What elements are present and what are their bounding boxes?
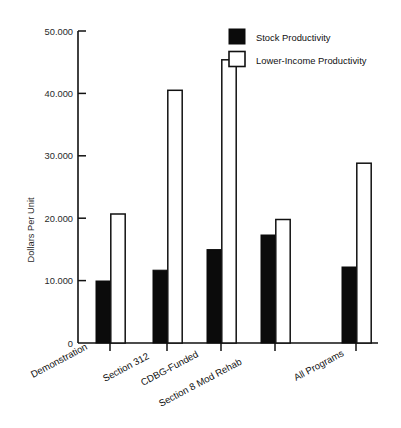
x-axis-category-labels: Demonstration Section 312 CDBG-Funded Se… [29,341,346,409]
y-axis-title: Dollars Per Unit [26,197,36,263]
bar-lower-cdbg-funded [222,60,236,343]
bar-chart: 50.000 40.000 30.000 20.000 10.000 0 Dol… [0,0,401,428]
y-tick-label-40000: 40.000 [45,89,73,99]
bar-group-section-8-mod-rehab [261,220,290,352]
bar-group-cdbg-funded [207,60,236,351]
bar-lower-section-312 [168,90,182,343]
cat-label-demonstration: Demonstration [29,341,89,380]
y-axis-tick-labels: 50.000 40.000 30.000 20.000 10.000 0 [45,27,73,349]
bar-stock-section-8-mod-rehab [261,235,275,343]
y-axis-ticks [78,31,86,281]
bar-stock-all-programs [342,267,356,343]
bar-lower-demonstration [111,214,125,343]
bar-group-demonstration [96,214,125,351]
cat-label-all-programs: All Programs [292,347,346,383]
y-tick-label-50000: 50.000 [45,27,73,37]
bar-lower-all-programs [357,163,371,343]
bar-lower-section-8-mod-rehab [276,220,290,344]
bar-group-all-programs [342,163,371,351]
legend-filled-square-icon [229,29,245,44]
legend: Stock Productivity Lower-Income Producti… [229,29,367,67]
bar-stock-section-312 [153,270,167,343]
bar-group-section-312 [153,90,182,351]
y-tick-label-30000: 30.000 [45,151,73,161]
y-tick-label-20000: 20.000 [45,214,73,224]
legend-label-stock-productivity: Stock Productivity [256,32,331,43]
bar-stock-demonstration [96,281,110,343]
chart-svg: 50.000 40.000 30.000 20.000 10.000 0 Dol… [0,0,401,428]
legend-outlined-square-icon [229,52,245,67]
y-tick-label-10000: 10.000 [45,276,73,286]
legend-label-lower-income-productivity: Lower-Income Productivity [256,55,367,66]
bar-stock-cdbg-funded [207,250,221,343]
